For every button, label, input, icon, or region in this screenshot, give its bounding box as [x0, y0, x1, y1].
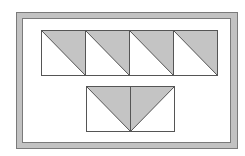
- quilt-diagram: [0, 0, 245, 156]
